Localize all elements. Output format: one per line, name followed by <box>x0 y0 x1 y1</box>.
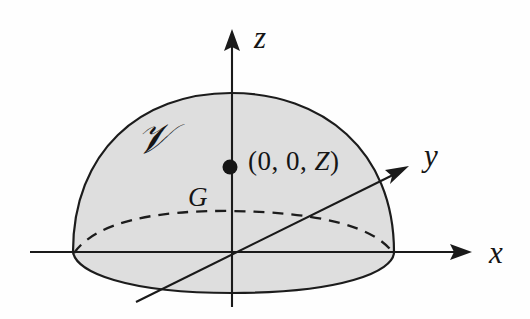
y-axis-arrowhead <box>385 166 409 184</box>
coords-prefix: (0, 0, <box>248 146 315 176</box>
coords-suffix: ) <box>330 146 340 176</box>
centroid-coordinates-label: (0, 0, Z) <box>248 148 340 175</box>
volume-region-shape <box>73 93 394 293</box>
volume-label: 𝒱 <box>135 118 173 160</box>
centroid-point <box>223 160 238 175</box>
y-axis-label: y <box>424 140 438 171</box>
figure-canvas: z y x 𝒱 G (0, 0, Z) <box>0 0 530 319</box>
coords-variable: Z <box>315 146 331 176</box>
centroid-label: G <box>188 184 208 211</box>
x-axis-label: x <box>489 237 503 268</box>
z-axis-label: z <box>254 22 266 53</box>
